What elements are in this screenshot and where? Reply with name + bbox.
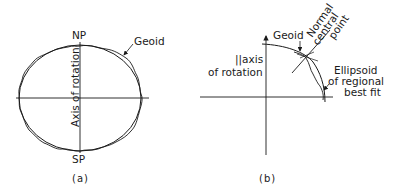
panel-b: Geoid ||axis of rotation Normal central … bbox=[200, 1, 384, 184]
ellipsoid-label-line3: best fit bbox=[344, 86, 381, 98]
geoid-pointer-arrow-a bbox=[124, 44, 133, 55]
axis-label-b-line2: of rotation bbox=[208, 66, 263, 78]
geoid-curve-b bbox=[294, 52, 323, 100]
panel-a: NP SP Geoid Axis of rotation (a) bbox=[16, 29, 165, 184]
south-pole-label: SP bbox=[72, 153, 85, 165]
axis-label-b-line1: ||axis bbox=[235, 53, 263, 66]
caption-a: (a) bbox=[72, 173, 89, 184]
regional-ellipsoid-curve bbox=[262, 44, 325, 102]
north-pole-label: NP bbox=[72, 29, 86, 41]
geoid-ellipsoid-figure: NP SP Geoid Axis of rotation (a) Geoid |… bbox=[0, 0, 398, 193]
axis-of-rotation-label: Axis of rotation bbox=[69, 47, 81, 127]
ellipsoid-pointer-arrow bbox=[324, 84, 329, 90]
caption-b: (b) bbox=[259, 173, 276, 184]
geoid-label-a: Geoid bbox=[134, 35, 165, 47]
geoid-label-b: Geoid bbox=[273, 29, 304, 41]
